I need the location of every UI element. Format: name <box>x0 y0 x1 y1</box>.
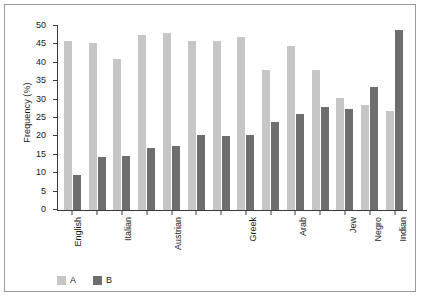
bar-group <box>134 26 159 210</box>
bar-group <box>283 26 308 210</box>
bar-series-a <box>113 59 121 210</box>
legend-item: A <box>57 275 76 285</box>
legend-swatch <box>93 276 102 285</box>
chart-legend: AB <box>57 275 124 285</box>
x-label-cell: Austrian <box>157 217 182 272</box>
bar-group <box>382 26 407 210</box>
bar-series-b <box>345 109 353 210</box>
bar-group <box>258 26 283 210</box>
bar-group <box>159 26 184 210</box>
chart-figure: Frequency (%) 05101520253035404550 Engli… <box>0 0 428 306</box>
bar-series-b <box>122 156 130 210</box>
bar-series-a <box>64 41 72 210</box>
bar-group <box>233 26 258 210</box>
x-tick-mark <box>369 210 370 215</box>
bar-group <box>308 26 333 210</box>
bar-series-b <box>246 135 254 210</box>
x-tick-mark <box>320 210 321 215</box>
x-tick-mark <box>171 210 172 215</box>
bar-series-a <box>237 37 245 210</box>
x-tick-mark <box>196 210 197 215</box>
y-tick-label: 40 <box>36 57 46 67</box>
bar-series-b <box>98 157 106 210</box>
bar-series-b <box>271 122 279 210</box>
bar-series-b <box>222 136 230 210</box>
bar-series-a <box>361 105 369 210</box>
bar-series-b <box>197 135 205 210</box>
x-axis-category-label: Indian <box>399 217 408 242</box>
bar-group <box>85 26 110 210</box>
x-tick-mark <box>121 210 122 215</box>
legend-swatch <box>57 276 66 285</box>
y-tick-label: 0 <box>41 204 46 214</box>
bar-group <box>357 26 382 210</box>
x-tick-mark <box>72 210 73 215</box>
bar-group <box>184 26 209 210</box>
y-tick-label: 50 <box>36 20 46 30</box>
x-tick-mark <box>245 210 246 215</box>
y-tick-label: 5 <box>41 186 46 196</box>
x-label-cell <box>307 217 332 272</box>
bar-series-a <box>386 111 394 210</box>
plot-area: 05101520253035404550 <box>57 26 407 211</box>
x-label-cell: Greek <box>232 217 257 272</box>
x-tick-mark <box>221 210 222 215</box>
bar-series-a <box>138 35 146 210</box>
bar-group <box>60 26 85 210</box>
bar-series-b <box>321 107 329 210</box>
bar-series-a <box>262 70 270 210</box>
x-label-cell <box>82 217 107 272</box>
y-tick-label: 45 <box>36 38 46 48</box>
bar-group <box>110 26 135 210</box>
x-tick-mark <box>146 210 147 215</box>
bar-series-a <box>213 41 221 210</box>
x-label-cell: Indian <box>382 217 407 272</box>
bar-series-b <box>73 175 81 210</box>
bar-series-a <box>312 70 320 210</box>
bar-series-b <box>147 148 155 210</box>
y-tick-label: 30 <box>36 94 46 104</box>
bar-group <box>209 26 234 210</box>
x-tick-mark <box>270 210 271 215</box>
bar-series-b <box>395 30 403 210</box>
bar-series-b <box>370 87 378 210</box>
x-axis-labels: EnglishItalianAustrianGreekArabJewNegroI… <box>57 217 407 272</box>
x-label-cell <box>207 217 232 272</box>
x-tick-mark <box>295 210 296 215</box>
x-tick-mark <box>394 210 395 215</box>
x-tick-mark <box>344 210 345 215</box>
bar-groups <box>58 26 407 210</box>
x-label-cell: Arab <box>282 217 307 272</box>
bar-series-a <box>163 33 171 210</box>
bar-series-a <box>287 46 295 210</box>
legend-label: A <box>70 275 76 285</box>
bar-series-a <box>188 41 196 210</box>
y-tick-label: 25 <box>36 112 46 122</box>
y-tick-label: 10 <box>36 167 46 177</box>
x-label-cell: Negro <box>357 217 382 272</box>
legend-label: B <box>106 275 112 285</box>
bar-series-a <box>89 43 97 210</box>
y-tick-label: 20 <box>36 130 46 140</box>
bar-series-b <box>172 146 180 210</box>
x-label-cell: English <box>57 217 82 272</box>
y-axis-label: Frequency (%) <box>20 20 34 205</box>
y-tick-label: 35 <box>36 75 46 85</box>
x-label-cell <box>257 217 282 272</box>
x-label-cell <box>132 217 157 272</box>
x-tick-mark <box>97 210 98 215</box>
bar-group <box>333 26 358 210</box>
legend-item: B <box>93 275 112 285</box>
y-tick-label: 15 <box>36 149 46 159</box>
x-label-cell <box>182 217 207 272</box>
bar-series-b <box>296 114 304 210</box>
bar-series-a <box>336 98 344 210</box>
x-label-cell: Italian <box>107 217 132 272</box>
x-label-cell: Jew <box>332 217 357 272</box>
